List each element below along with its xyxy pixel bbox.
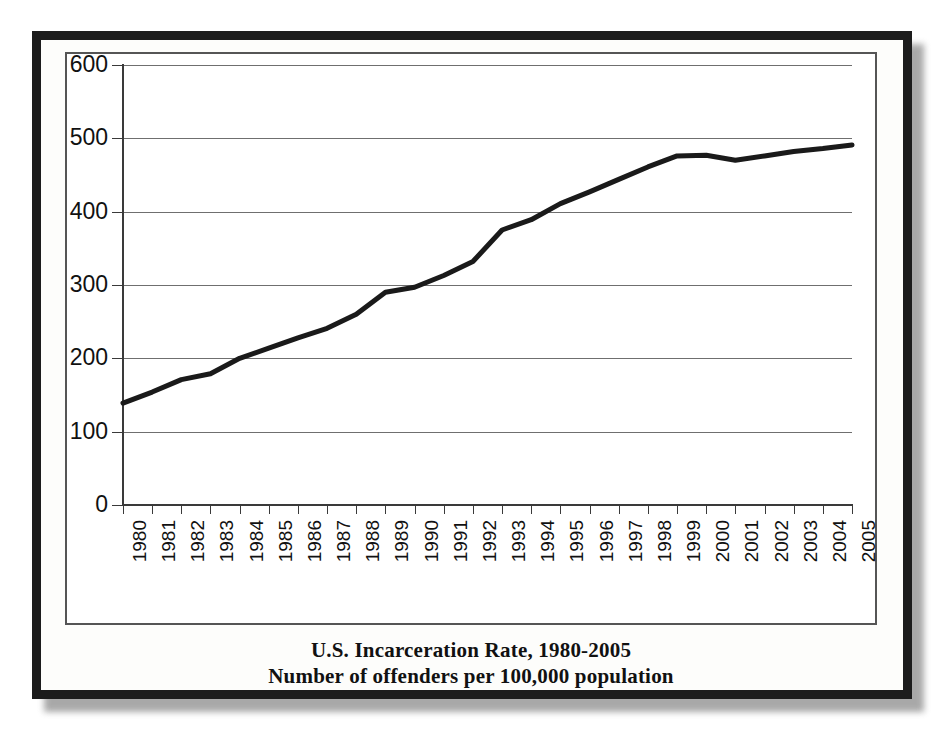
x-label-2000: 2000 (713, 520, 732, 562)
x-tick-1990 (415, 505, 416, 514)
x-tick-1980 (123, 505, 124, 514)
x-label-2002: 2002 (772, 520, 791, 562)
y-tick-600 (112, 65, 124, 66)
x-label-1986: 1986 (305, 520, 324, 562)
x-label-1982: 1982 (188, 520, 207, 562)
x-tick-2001 (735, 505, 736, 514)
x-label-1985: 1985 (276, 520, 295, 562)
x-label-1980: 1980 (130, 520, 149, 562)
x-label-1983: 1983 (217, 520, 236, 562)
x-label-1988: 1988 (363, 520, 382, 562)
x-label-2001: 2001 (742, 520, 761, 562)
x-tick-1995 (560, 505, 561, 514)
x-tick-1991 (444, 505, 445, 514)
x-label-2003: 2003 (801, 520, 820, 562)
x-label-1990: 1990 (422, 520, 441, 562)
y-tick-200 (112, 358, 124, 359)
x-label-2005: 2005 (859, 520, 878, 562)
y-tick-0 (112, 505, 124, 506)
y-tick-400 (112, 212, 124, 213)
x-label-2004: 2004 (830, 520, 849, 562)
x-tick-1988 (356, 505, 357, 514)
x-label-1987: 1987 (334, 520, 353, 562)
x-tick-1997 (619, 505, 620, 514)
incarceration-rate-figure: 6005004003002001000 19801981198219831984… (0, 0, 942, 732)
x-tick-1987 (327, 505, 328, 514)
x-tick-1984 (240, 505, 241, 514)
y-tick-500 (112, 138, 124, 139)
y-tick-300 (112, 285, 124, 286)
x-tick-2005 (852, 505, 853, 514)
figure-caption-line-1: U.S. Incarceration Rate, 1980-2005 (70, 638, 872, 663)
x-label-1992: 1992 (480, 520, 499, 562)
x-label-1981: 1981 (159, 520, 178, 562)
x-tick-1983 (210, 505, 211, 514)
x-axis-tick-labels: 1980198119821983198419851986198719881989… (0, 0, 942, 732)
x-tick-1996 (590, 505, 591, 514)
x-label-1994: 1994 (538, 520, 557, 562)
x-label-1993: 1993 (509, 520, 528, 562)
x-tick-2000 (706, 505, 707, 514)
x-label-1999: 1999 (684, 520, 703, 562)
x-tick-1986 (298, 505, 299, 514)
x-tick-2003 (794, 505, 795, 514)
x-label-1997: 1997 (626, 520, 645, 562)
y-tick-100 (112, 432, 124, 433)
x-tick-1989 (385, 505, 386, 514)
x-label-1991: 1991 (451, 520, 470, 562)
x-label-1998: 1998 (655, 520, 674, 562)
figure-caption-line-2: Number of offenders per 100,000 populati… (70, 664, 872, 689)
x-tick-1981 (152, 505, 153, 514)
x-label-1995: 1995 (567, 520, 586, 562)
x-tick-1998 (648, 505, 649, 514)
x-tick-2004 (823, 505, 824, 514)
x-tick-1994 (531, 505, 532, 514)
x-label-1996: 1996 (597, 520, 616, 562)
x-label-1989: 1989 (392, 520, 411, 562)
x-tick-1999 (677, 505, 678, 514)
x-tick-1985 (269, 505, 270, 514)
x-tick-1993 (502, 505, 503, 514)
x-label-1984: 1984 (247, 520, 266, 562)
x-tick-2002 (765, 505, 766, 514)
x-tick-1992 (473, 505, 474, 514)
x-tick-1982 (181, 505, 182, 514)
